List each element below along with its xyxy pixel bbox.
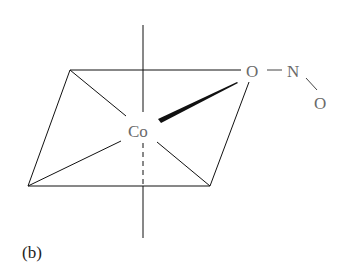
bonded-oxygen-label: O — [246, 62, 258, 81]
nitrogen-label: N — [287, 62, 299, 81]
bond-n-o — [306, 78, 317, 90]
cobalt-nitrito-diagram: Co O N O (b) — [0, 0, 360, 278]
panel-label: (b) — [22, 243, 42, 262]
central-atom-label: Co — [128, 122, 148, 141]
bond-top-left — [70, 70, 126, 116]
terminal-oxygen-label: O — [314, 94, 326, 113]
wedge-bond-co-o — [158, 82, 238, 123]
bond-bottom-right — [157, 142, 210, 186]
plane-right-edge — [210, 82, 249, 186]
